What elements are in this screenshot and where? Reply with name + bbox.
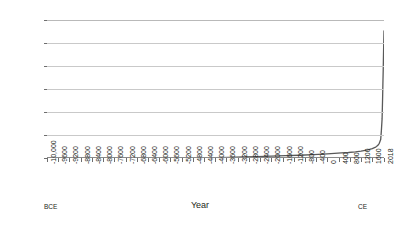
- y-axis-tick-mark: [44, 43, 47, 44]
- x-axis-tick-mark: [283, 158, 284, 162]
- x-axis-tick-mark: [316, 158, 317, 162]
- x-axis-tick-mark: [204, 158, 205, 162]
- x-axis-tick-label: -2800: [252, 146, 259, 164]
- y-axis-tick-mark: [44, 89, 47, 90]
- x-axis-tick-mark: [294, 158, 295, 162]
- x-axis-tick-label: -4000: [218, 146, 225, 164]
- gridline: [47, 20, 384, 21]
- x-axis-tick-mark: [58, 158, 59, 162]
- x-axis-tick-mark: [114, 158, 115, 162]
- x-axis-tick-mark: [249, 158, 250, 162]
- gridline: [47, 135, 384, 136]
- x-axis-tick-label: -7200: [129, 146, 136, 164]
- x-axis-tick-mark: [81, 158, 82, 162]
- x-axis-tick-label: 800: [353, 152, 360, 164]
- x-axis-tick-mark: [69, 158, 70, 162]
- x-axis-tick-label: -4400: [207, 146, 214, 164]
- x-axis-tick-label: -1200: [297, 146, 304, 164]
- x-axis-tick-mark: [260, 158, 261, 162]
- x-axis-tick-label: -1600: [286, 146, 293, 164]
- x-axis-tick-label: -7600: [117, 146, 124, 164]
- x-axis-tick-mark: [384, 158, 385, 162]
- y-axis-tick-mark: [44, 112, 47, 113]
- x-axis-tick-mark: [226, 158, 227, 162]
- x-axis-tick-label: 400: [342, 152, 349, 164]
- x-axis-tick-mark: [361, 158, 362, 162]
- x-axis-tick-mark: [137, 158, 138, 162]
- x-axis-tick-mark: [182, 158, 183, 162]
- gridline: [47, 66, 384, 67]
- x-axis-tick-mark: [271, 158, 272, 162]
- x-axis-tick-mark: [238, 158, 239, 162]
- x-axis-tick-label: 2018: [387, 148, 394, 164]
- x-axis-tick-label: 1200: [364, 148, 371, 164]
- x-axis-tick-mark: [126, 158, 127, 162]
- x-axis-tick-label: -10,000: [50, 140, 57, 164]
- x-axis-tick-mark: [103, 158, 104, 162]
- x-axis-tick-mark: [170, 158, 171, 162]
- x-axis-tick-mark: [327, 158, 328, 162]
- x-axis-title: Year: [0, 200, 400, 210]
- x-axis-tick-mark: [193, 158, 194, 162]
- x-axis-tick-label: -5600: [173, 146, 180, 164]
- era-label-bce: BCE: [44, 203, 57, 210]
- x-axis-tick-label: -8800: [84, 146, 91, 164]
- x-axis-tick-label: -6800: [140, 146, 147, 164]
- era-label-ce: CE: [358, 203, 367, 210]
- x-axis-tick-mark: [47, 158, 48, 162]
- x-axis-tick-mark: [339, 158, 340, 162]
- x-axis-tick-label: -3600: [229, 146, 236, 164]
- x-axis-tick-mark: [92, 158, 93, 162]
- gridline: [47, 89, 384, 90]
- x-axis-tick-mark: [215, 158, 216, 162]
- x-axis-tick-label: -2400: [263, 146, 270, 164]
- x-axis-tick-label: 1600: [375, 148, 382, 164]
- gridline: [47, 43, 384, 44]
- x-axis-tick-mark: [350, 158, 351, 162]
- x-axis-tick-label: -6000: [162, 146, 169, 164]
- x-axis-tick-label: -800: [308, 150, 315, 164]
- y-axis-tick-mark: [44, 66, 47, 67]
- x-axis-tick-mark: [372, 158, 373, 162]
- x-axis-tick-label: -400: [319, 150, 326, 164]
- y-axis-tick-mark: [44, 20, 47, 21]
- x-axis-tick-mark: [305, 158, 306, 162]
- y-axis-tick-mark: [44, 135, 47, 136]
- urbanization-rate-chart: Urbanization rate (%) 0102030405060 -10,…: [0, 0, 400, 229]
- gridline: [47, 112, 384, 113]
- y-axis-title: Urbanization rate (%): [12, 0, 24, 18]
- plot-area: [47, 20, 384, 158]
- x-axis-tick-label: -2000: [274, 146, 281, 164]
- x-axis-tick-label: -4800: [196, 146, 203, 164]
- x-axis-tick-mark: [159, 158, 160, 162]
- x-axis-tick-label: -6400: [151, 146, 158, 164]
- x-axis-tick-label: -9200: [72, 146, 79, 164]
- x-axis-tick-label: -8000: [106, 146, 113, 164]
- x-axis-tick-label: -3200: [241, 146, 248, 164]
- x-axis-tick-label: -9600: [61, 146, 68, 164]
- x-axis-tick-label: -8400: [95, 146, 102, 164]
- x-axis-tick-label: 0: [330, 160, 337, 164]
- x-axis-tick-label: -5200: [185, 146, 192, 164]
- x-axis-tick-mark: [148, 158, 149, 162]
